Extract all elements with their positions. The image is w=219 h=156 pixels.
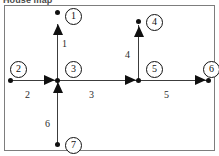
node-label-2[interactable]: 2 [10, 61, 27, 78]
node-dot-5 [136, 78, 141, 83]
edge-label-3-1: 1 [62, 39, 67, 49]
edge-label-7-3: 6 [45, 119, 50, 129]
node-dot-7 [55, 142, 60, 147]
node-label-4[interactable]: 4 [146, 14, 163, 31]
node-dot-2 [8, 78, 13, 83]
arrowhead-to-node-5-from-3 [125, 75, 136, 85]
edge-label-5-4: 4 [125, 50, 130, 60]
arrowhead-to-node-6-from-5 [195, 75, 206, 85]
edge-label-5-6: 5 [164, 90, 169, 100]
diagram-screenshot: House map 1 2 3 4 [0, 0, 219, 156]
node-dot-6 [206, 78, 211, 83]
arrowhead-to-node-4 [134, 26, 144, 37]
node-label-1[interactable]: 1 [65, 8, 82, 25]
node-label-3[interactable]: 3 [65, 61, 82, 78]
diagram-frame: 1 2 3 4 5 6 7 1 2 3 4 5 6 [4, 5, 215, 151]
node-dot-1 [55, 10, 60, 15]
node-label-6[interactable]: 6 [203, 61, 219, 78]
edge-label-3-5: 3 [89, 90, 94, 100]
edge-label-2-3: 2 [25, 90, 30, 100]
arrowhead-to-node-1 [53, 24, 63, 35]
node-dot-3 [55, 78, 60, 83]
node-dot-4 [136, 19, 141, 24]
arrowhead-to-node-3-from-7 [53, 82, 63, 93]
node-label-7[interactable]: 7 [65, 137, 82, 154]
node-label-5[interactable]: 5 [146, 61, 163, 78]
